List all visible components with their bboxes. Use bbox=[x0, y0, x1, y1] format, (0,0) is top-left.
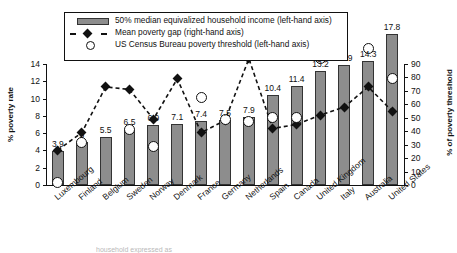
legend-item-threshold: US Census Bureau poverty threshold (left… bbox=[69, 40, 343, 51]
y-tick-label-left: 2 bbox=[24, 164, 40, 173]
y-tick-label-left: 6 bbox=[24, 129, 40, 138]
census-threshold-marker bbox=[387, 73, 398, 84]
y-axis-right-line bbox=[404, 64, 405, 186]
category-label: Italy bbox=[339, 185, 357, 202]
y-axis-right-title: % of poverty threshold bbox=[445, 68, 454, 158]
y-tick-label-left: 8 bbox=[24, 112, 40, 121]
bar-value-label: 10.4 bbox=[259, 84, 287, 93]
y-tick-mark-right bbox=[405, 91, 408, 92]
bar-value-label: 14.3 bbox=[354, 50, 382, 59]
y-tick-label-left: 14 bbox=[24, 60, 40, 69]
legend-label-threshold: US Census Bureau poverty threshold (left… bbox=[115, 40, 309, 49]
y-tick-mark-left bbox=[43, 185, 46, 186]
y-tick-label-right: 80 bbox=[411, 73, 429, 82]
y-axis-left-title: % poverty rate bbox=[6, 75, 15, 155]
y-tick-label-right: 50 bbox=[411, 114, 429, 123]
bar-swatch-icon bbox=[69, 16, 115, 27]
y-tick-label-right: 70 bbox=[411, 87, 429, 96]
legend-item-bar: 50% median equivalized household income … bbox=[69, 16, 343, 27]
y-tick-mark-right bbox=[405, 172, 408, 173]
y-tick-label-right: 40 bbox=[411, 127, 429, 136]
open-circle-icon bbox=[69, 40, 115, 51]
y-tick-label-right: 20 bbox=[411, 154, 429, 163]
y-tick-label-left: 4 bbox=[24, 146, 40, 155]
legend-label-bar: 50% median equivalized household income … bbox=[115, 16, 332, 25]
y-tick-mark-right bbox=[405, 77, 408, 78]
bar-value-label: 7.9 bbox=[235, 106, 263, 115]
y-tick-mark-right bbox=[405, 158, 408, 159]
y-tick-mark-right bbox=[405, 64, 408, 65]
bar-value-label: 5.5 bbox=[92, 126, 120, 135]
census-threshold-marker bbox=[243, 116, 254, 127]
y-tick-label-left: 12 bbox=[24, 77, 40, 86]
y-tick-mark-right bbox=[405, 131, 408, 132]
census-threshold-marker bbox=[196, 92, 207, 103]
y-tick-label-right: 60 bbox=[411, 100, 429, 109]
diamond-line-icon bbox=[69, 28, 115, 39]
bar-value-label: 3.9 bbox=[44, 140, 72, 149]
y-tick-mark-right bbox=[405, 145, 408, 146]
y-tick-label-right: 30 bbox=[411, 141, 429, 150]
chart-legend: 50% median equivalized household income … bbox=[64, 12, 348, 61]
y-tick-label-left: 10 bbox=[24, 95, 40, 104]
legend-label-gap: Mean poverty gap (right-hand axis) bbox=[115, 28, 244, 37]
bar-value-label: 11.4 bbox=[283, 75, 311, 84]
bar-value-label: 17.8 bbox=[378, 23, 406, 32]
y-tick-label-right: 90 bbox=[411, 60, 429, 69]
y-tick-label-left: 0 bbox=[24, 181, 40, 190]
census-threshold-marker bbox=[148, 141, 159, 152]
figure-caption: household expressed as bbox=[96, 246, 456, 253]
y-tick-mark-right bbox=[405, 118, 408, 119]
legend-item-gap: Mean poverty gap (right-hand axis) bbox=[69, 28, 343, 39]
y-tick-mark-right bbox=[405, 104, 408, 105]
